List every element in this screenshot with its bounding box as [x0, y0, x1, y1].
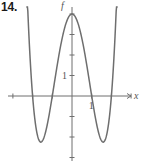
y-tick-label-1: 1 — [62, 70, 67, 81]
y-axis-label: f — [61, 0, 65, 11]
x-axis-label: x — [133, 90, 139, 101]
function-plot: x f 1 1 — [0, 0, 142, 161]
x-tick-label-1: 1 — [89, 100, 94, 111]
